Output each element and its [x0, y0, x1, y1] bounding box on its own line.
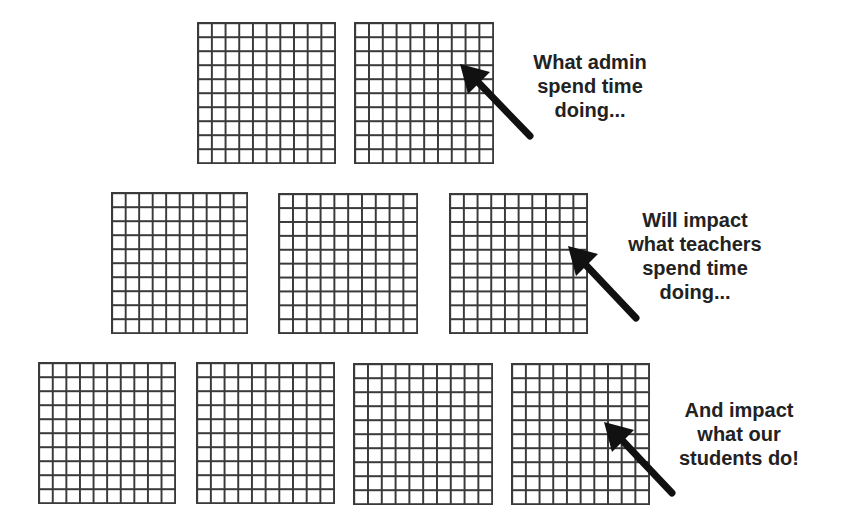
grid-teachers-2: [278, 193, 418, 334]
grid-students-3: [353, 363, 493, 505]
grid-students-1: [38, 362, 176, 504]
caption-teachers-line-3: spend time: [610, 256, 780, 280]
caption-students-line-2: what our: [664, 422, 814, 446]
caption-admin-line-3: doing...: [520, 98, 660, 122]
grid-admin-1: [197, 22, 336, 164]
caption-admin-line-1: What admin: [520, 50, 660, 74]
caption-teachers: Will impact what teachers spend time doi…: [610, 208, 780, 304]
caption-teachers-line-2: what teachers: [610, 232, 780, 256]
caption-admin: What admin spend time doing...: [520, 50, 660, 122]
grid-teachers-3: [449, 193, 588, 334]
caption-teachers-line-4: doing...: [610, 280, 780, 304]
grid-admin-2: [354, 22, 494, 164]
grid-students-4: [511, 363, 650, 505]
caption-admin-line-2: spend time: [520, 74, 660, 98]
caption-students-line-1: And impact: [664, 398, 814, 422]
grid-students-2: [196, 362, 335, 504]
caption-students-line-3: students do!: [664, 446, 814, 470]
caption-teachers-line-1: Will impact: [610, 208, 780, 232]
grid-teachers-1: [111, 192, 248, 334]
caption-students: And impact what our students do!: [664, 398, 814, 470]
